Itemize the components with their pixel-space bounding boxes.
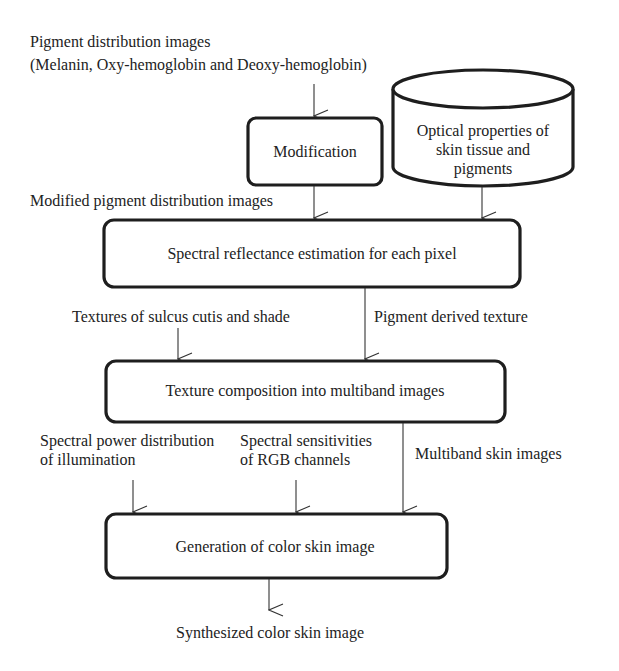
- optical-label-line2: skin tissue and: [436, 141, 530, 158]
- generation-label: Generation of color skin image: [175, 538, 374, 556]
- modification-node: Modification: [248, 118, 382, 185]
- spd-label-line1: Spectral power distribution: [40, 432, 214, 450]
- rgb-label-line2: of RGB channels: [240, 451, 350, 468]
- pigment-images-sublabel: (Melanin, Oxy-hemoglobin and Deoxy-hemog…: [30, 56, 367, 74]
- pigment-images-label: Pigment distribution images: [30, 33, 210, 51]
- optical-label-line3: pigments: [454, 160, 513, 178]
- textures-sulcus-label: Textures of sulcus cutis and shade: [72, 308, 290, 325]
- output-label: Synthesized color skin image: [176, 624, 364, 642]
- modified-images-label: Modified pigment distribution images: [30, 192, 273, 210]
- spd-label-line2: of illumination: [40, 451, 136, 468]
- pigment-texture-label: Pigment derived texture: [374, 308, 528, 326]
- spectral-reflectance-node: Spectral reflectance estimation for each…: [104, 220, 520, 287]
- rgb-label-line1: Spectral sensitivities: [240, 432, 372, 450]
- flow-diagram: Pigment distribution images (Melanin, Ox…: [0, 0, 619, 671]
- generation-node: Generation of color skin image: [106, 514, 447, 578]
- texture-composition-node: Texture composition into multiband image…: [106, 361, 505, 422]
- multiband-label: Multiband skin images: [415, 445, 562, 463]
- optical-label-line1: Optical properties of: [417, 122, 550, 140]
- optical-properties-database: Optical properties of skin tissue and pi…: [393, 70, 573, 186]
- spectral-label: Spectral reflectance estimation for each…: [167, 245, 457, 263]
- modification-label: Modification: [273, 143, 357, 160]
- texture-label: Texture composition into multiband image…: [166, 382, 445, 400]
